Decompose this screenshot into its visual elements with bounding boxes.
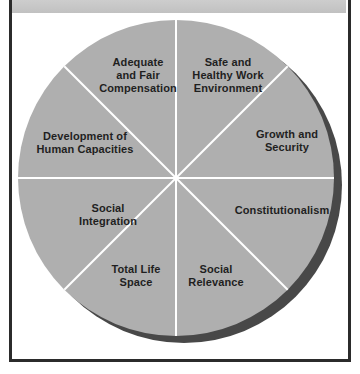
slice-label-safe-and-healthy-work-environment: Safe and Healthy Work Environment bbox=[192, 56, 263, 95]
slice-label-adequate-and-fair-compensation: Adequate and Fair Compensation bbox=[99, 56, 177, 95]
slice-label-growth-and-security: Growth and Security bbox=[256, 128, 318, 154]
slice-label-constitutionalism: Constitutionalism bbox=[235, 204, 330, 217]
slice-label-development-of-human-capacities: Development of Human Capacities bbox=[37, 130, 134, 156]
qwl-pie-chart bbox=[0, 0, 360, 374]
slice-label-social-integration: Social Integration bbox=[79, 202, 137, 228]
slice-label-social-relevance: Social Relevance bbox=[188, 263, 243, 289]
figure-page: Adequate and Fair Compensation Safe and … bbox=[0, 0, 360, 374]
slice-label-total-life-space: Total Life Space bbox=[111, 263, 160, 289]
